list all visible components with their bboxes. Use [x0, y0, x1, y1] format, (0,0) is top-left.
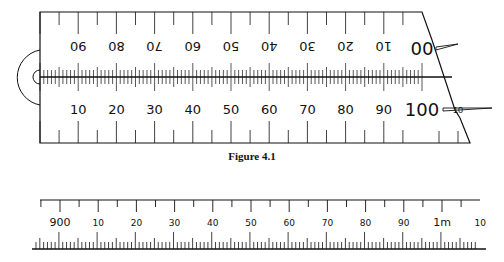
bottom-scale-label: 30 — [146, 102, 163, 117]
bottom-scale-label: 40 — [185, 102, 202, 117]
thumb-hole — [33, 70, 40, 84]
tape-label: 20 — [131, 218, 143, 228]
ruler-diagram: 9080706050403020100010203040506070809010… — [0, 0, 504, 262]
tape-label: 90 — [398, 218, 410, 228]
top-scale-label: 00 — [411, 38, 434, 59]
tape-label: 10 — [92, 218, 104, 228]
tape-label: 50 — [245, 218, 257, 228]
tape-label: 70 — [322, 218, 334, 228]
upper-pointer — [436, 44, 458, 50]
tape-label: 80 — [360, 218, 372, 228]
top-scale-label: 20 — [337, 39, 354, 54]
top-scale-label: 40 — [261, 39, 278, 54]
cursor-label: 10 — [453, 105, 463, 115]
bottom-scale-label: 20 — [108, 102, 125, 117]
bottom-scale-label: 50 — [223, 102, 240, 117]
bottom-scale-label: 90 — [376, 102, 393, 117]
bottom-scale-label: 60 — [261, 102, 278, 117]
tape-label: 1m — [433, 216, 451, 229]
tape-label: 40 — [207, 218, 219, 228]
bottom-scale-label: 100 — [405, 99, 439, 120]
top-scale-label: 10 — [376, 39, 393, 54]
top-scale-label: 70 — [146, 39, 163, 54]
top-scale-label: 90 — [70, 39, 87, 54]
bottom-scale-label: 70 — [299, 102, 316, 117]
tape-label: 10 — [474, 218, 486, 228]
figure-caption: Figure 4.1 — [0, 150, 504, 162]
bottom-scale-label: 10 — [70, 102, 87, 117]
top-scale-label: 30 — [299, 39, 316, 54]
tape-label: 900 — [50, 216, 71, 229]
tape-label: 30 — [169, 218, 181, 228]
top-scale-label: 80 — [108, 39, 125, 54]
tape-label: 60 — [283, 218, 295, 228]
lower-pointer — [443, 108, 492, 111]
top-scale-label: 50 — [223, 39, 240, 54]
bottom-scale-label: 80 — [337, 102, 354, 117]
top-scale-label: 60 — [185, 39, 202, 54]
thumb-arc — [17, 50, 40, 105]
